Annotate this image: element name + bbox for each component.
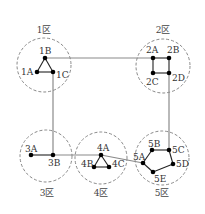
node-4A-label: 4A <box>97 143 110 153</box>
network-zone-diagram: 1区2区3区4区5区1A1B1C2A2B2C2D3A3B4A4B4C5A5B5C… <box>0 0 205 214</box>
node-4A <box>99 153 104 158</box>
node-2C <box>151 71 156 76</box>
node-2D <box>167 71 172 76</box>
node-2A-label: 2A <box>146 45 159 55</box>
node-2C-label: 2C <box>146 77 159 87</box>
node-1C <box>51 70 56 75</box>
node-2B-label: 2B <box>167 45 180 55</box>
node-4B-label: 4B <box>81 159 94 169</box>
zone-1-label: 1区 <box>37 25 52 35</box>
node-3B-label: 3B <box>48 158 61 168</box>
node-5D <box>171 162 176 167</box>
node-1A <box>35 70 40 75</box>
node-5B-label: 5B <box>148 139 161 149</box>
zone-2-boundary <box>136 39 190 93</box>
edge-1B-1C <box>45 58 53 72</box>
zone-3-label: 3区 <box>40 188 55 198</box>
zone-4-label: 4区 <box>94 188 109 198</box>
nodes-layer <box>29 56 176 175</box>
node-2B <box>167 56 172 61</box>
node-5A-label: 5A <box>133 152 146 162</box>
zones-layer <box>17 38 190 185</box>
node-5C-label: 5C <box>172 145 185 155</box>
node-1A-label: 1A <box>21 67 34 77</box>
node-4C <box>107 165 112 170</box>
node-5E-label: 5E <box>154 174 166 184</box>
labels-layer: 1区2区3区4区5区1A1B1C2A2B2C2D3A3B4A4B4C5A5B5C… <box>21 25 189 198</box>
node-3A-label: 3A <box>25 144 38 154</box>
edge-5D-5E <box>153 164 173 172</box>
node-1B <box>43 56 48 61</box>
zone-2-label: 2区 <box>156 25 171 35</box>
node-3B <box>51 153 56 158</box>
node-2A <box>151 56 156 61</box>
node-4C-label: 4C <box>112 159 125 169</box>
node-1B-label: 1B <box>39 46 52 56</box>
node-1C-label: 1C <box>56 70 69 80</box>
edge-1A-1B <box>37 58 45 72</box>
node-5C <box>167 148 172 153</box>
zone-5-label: 5区 <box>155 188 170 198</box>
node-5D-label: 5D <box>176 159 189 169</box>
zone-3-boundary <box>20 130 72 182</box>
node-2D-label: 2D <box>172 73 185 83</box>
